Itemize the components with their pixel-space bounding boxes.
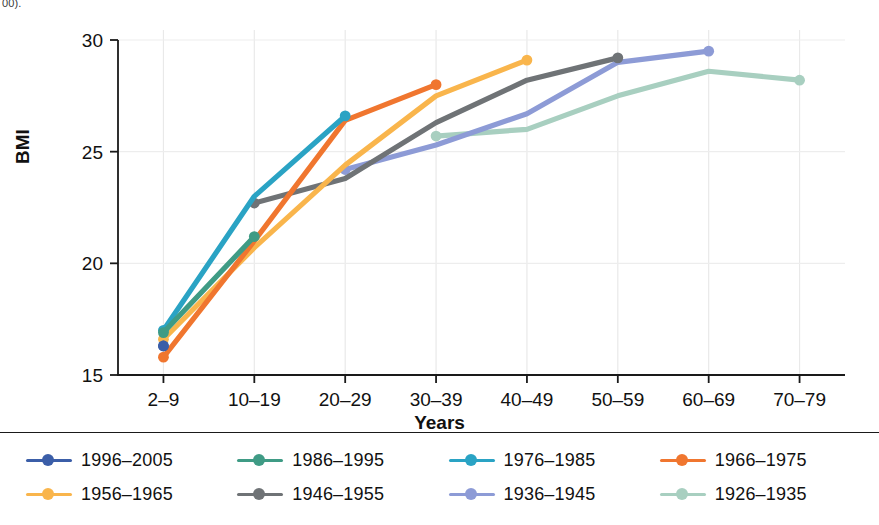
legend-item[interactable]: 1996–2005 [26,450,237,471]
x-tick-label: 10–19 [228,389,281,410]
legend-swatch-icon [237,487,283,501]
legend-item[interactable]: 1936–1945 [449,484,660,505]
y-tick-label: 20 [82,253,103,274]
x-tick-label: 2–9 [148,389,180,410]
legend-swatch-icon [449,453,495,467]
x-tick-label: 70–79 [773,389,826,410]
y-tick-label: 25 [82,142,103,163]
caption-fragment: 00). [2,0,21,9]
legend-swatch-icon [237,453,283,467]
legend-label: 1936–1945 [504,484,596,505]
legend-label: 1996–2005 [81,450,173,471]
legend-label: 1976–1985 [504,450,596,471]
data-point [431,131,442,142]
data-point [158,341,169,352]
data-point [431,79,442,90]
series-line [163,237,254,333]
legend-label: 1966–1975 [715,450,807,471]
legend-grid: 1996–20051986–19951976–19851966–19751956… [0,443,879,511]
data-point [612,52,623,63]
data-point [522,55,533,66]
data-point [340,111,351,122]
series-1996-2005 [158,341,169,352]
axis-lines [118,40,845,375]
legend-item[interactable]: 1976–1985 [449,450,660,471]
legend-label: 1986–1995 [292,450,384,471]
legend-label: 1956–1965 [81,484,173,505]
legend-item[interactable]: 1966–1975 [660,450,871,471]
series-1986-1995 [158,231,260,338]
data-point [703,46,714,57]
x-tick-label: 50–59 [591,389,644,410]
legend-item[interactable]: 1946–1955 [237,484,448,505]
legend: 1996–20051986–19951976–19851966–19751956… [0,432,879,518]
legend-swatch-icon [449,487,495,501]
legend-label: 1946–1955 [292,484,384,505]
legend-item[interactable]: 1956–1965 [26,484,237,505]
bmi-cohort-figure: 00). 152025302–910–1920–2930–3940–4950–5… [0,0,879,525]
y-tick-label: 15 [82,365,103,386]
x-tick-label: 60–69 [682,389,735,410]
data-point [794,75,805,86]
legend-item[interactable]: 1986–1995 [237,450,448,471]
x-axis-label: Years [0,412,879,434]
legend-swatch-icon [660,453,706,467]
data-point [249,231,260,242]
y-tick-label: 30 [82,30,103,51]
y-axis-label: BMI [12,129,34,164]
x-tick-label: 30–39 [410,389,463,410]
data-point [158,352,169,363]
legend-swatch-icon [26,487,72,501]
legend-swatch-icon [26,453,72,467]
x-tick-label: 40–49 [501,389,554,410]
legend-swatch-icon [660,487,706,501]
legend-label: 1926–1935 [715,484,807,505]
x-tick-label: 20–29 [319,389,372,410]
data-point [158,327,169,338]
plot-area: 152025302–910–1920–2930–3940–4950–5960–6… [0,14,879,424]
legend-item[interactable]: 1926–1935 [660,484,871,505]
line-chart-svg: 152025302–910–1920–2930–3940–4950–5960–6… [0,14,879,424]
